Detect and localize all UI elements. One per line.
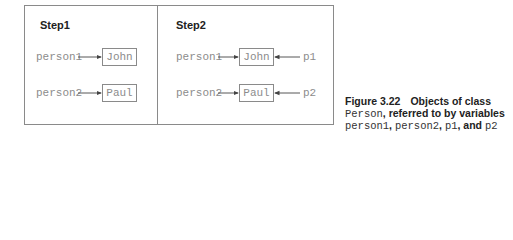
figure-number: Figure 3.22 [345, 95, 400, 107]
caption-line-3: person1, person2, p1, and p2 [345, 120, 513, 132]
caption-var-p1: p1 [445, 120, 458, 132]
caption-var-person1: person1 [345, 120, 389, 132]
caption-text-1: Objects of class [410, 95, 491, 107]
caption-sep: , and [458, 119, 485, 131]
figure-caption: Figure 3.22Objects of class Person, refe… [345, 96, 513, 132]
caption-var-p2: p2 [485, 120, 498, 132]
caption-line-2: Person, referred to by variables [345, 108, 513, 121]
caption-var-person2: person2 [395, 120, 439, 132]
caption-text-2: , referred to by variables [383, 107, 505, 119]
caption-class-name: Person [345, 108, 383, 120]
